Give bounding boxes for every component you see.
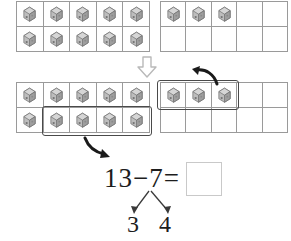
cube-icon [21, 86, 38, 103]
ten-frame-row2-left [16, 82, 150, 133]
frame-row [161, 83, 287, 108]
subtraction-equation: 13−7= [104, 163, 180, 193]
frame-cell[interactable] [17, 27, 44, 52]
frame-cell[interactable] [97, 2, 124, 27]
take-four-arrow-icon [82, 136, 118, 160]
frame-cell[interactable] [186, 83, 211, 108]
frame-cell[interactable] [70, 27, 97, 52]
frame-cell[interactable] [44, 108, 71, 133]
frame-row [17, 2, 149, 27]
frame-row [161, 27, 287, 52]
answer-box[interactable] [186, 162, 222, 196]
ten-frame-row1-left [16, 1, 150, 52]
frame-cell[interactable] [44, 27, 71, 52]
cube-icon [21, 30, 38, 47]
frame-cell[interactable] [263, 108, 287, 133]
ten-frame-row2-right [160, 82, 288, 133]
bond-part-left: 3 [127, 212, 139, 236]
cube-icon [74, 86, 91, 103]
cube-icon [21, 111, 38, 128]
cube-icon [128, 5, 145, 22]
cube-icon [101, 111, 118, 128]
frame-cell[interactable] [161, 108, 186, 133]
frame-cell[interactable] [263, 2, 287, 27]
cube-icon [21, 5, 38, 22]
frame-row [17, 83, 149, 108]
cube-icon [165, 5, 182, 22]
bond-part-right: 4 [159, 212, 171, 236]
frame-cell[interactable] [161, 2, 186, 27]
ten-frame-row1-right [160, 1, 288, 52]
frame-cell[interactable] [212, 83, 237, 108]
frame-cell[interactable] [70, 2, 97, 27]
cube-icon [48, 5, 65, 22]
cube-icon [48, 86, 65, 103]
frame-cell[interactable] [70, 83, 97, 108]
cube-icon [48, 30, 65, 47]
cube-icon [74, 111, 91, 128]
cube-icon [74, 5, 91, 22]
frame-cell[interactable] [161, 83, 186, 108]
frame-cell[interactable] [97, 108, 124, 133]
worksheet-canvas: 13−7= 3 4 [0, 0, 291, 241]
number-bond-branches [110, 190, 190, 218]
frame-cell[interactable] [237, 83, 262, 108]
cube-icon [190, 5, 207, 22]
frame-cell[interactable] [44, 83, 71, 108]
frame-cell[interactable] [186, 27, 211, 52]
frame-cell[interactable] [70, 108, 97, 133]
frame-cell[interactable] [17, 83, 44, 108]
frame-cell[interactable] [123, 2, 149, 27]
frame-cell[interactable] [237, 108, 262, 133]
frame-cell[interactable] [186, 2, 211, 27]
frame-cell[interactable] [44, 2, 71, 27]
frame-cell[interactable] [212, 2, 237, 27]
down-arrow-icon [136, 56, 158, 78]
frame-row [161, 108, 287, 133]
frame-cell[interactable] [186, 108, 211, 133]
frame-cell[interactable] [123, 108, 149, 133]
frame-cell[interactable] [17, 108, 44, 133]
frame-cell[interactable] [97, 83, 124, 108]
cube-icon [48, 111, 65, 128]
frame-cell[interactable] [97, 27, 124, 52]
frame-cell[interactable] [212, 27, 237, 52]
frame-row [17, 108, 149, 133]
frame-cell[interactable] [263, 83, 287, 108]
frame-row [17, 27, 149, 52]
frame-row [161, 2, 287, 27]
frame-cell[interactable] [123, 83, 149, 108]
cube-icon [128, 86, 145, 103]
frame-cell[interactable] [263, 27, 287, 52]
cube-icon [165, 86, 182, 103]
cube-icon [128, 30, 145, 47]
frame-cell[interactable] [161, 27, 186, 52]
cube-icon [216, 5, 233, 22]
cube-icon [128, 111, 145, 128]
cube-icon [101, 5, 118, 22]
cube-icon [101, 30, 118, 47]
frame-cell[interactable] [237, 27, 262, 52]
frame-cell[interactable] [212, 108, 237, 133]
cube-icon [216, 86, 233, 103]
frame-cell[interactable] [17, 2, 44, 27]
cube-icon [74, 30, 91, 47]
cube-icon [101, 86, 118, 103]
cube-icon [190, 86, 207, 103]
frame-cell[interactable] [123, 27, 149, 52]
frame-cell[interactable] [237, 2, 262, 27]
